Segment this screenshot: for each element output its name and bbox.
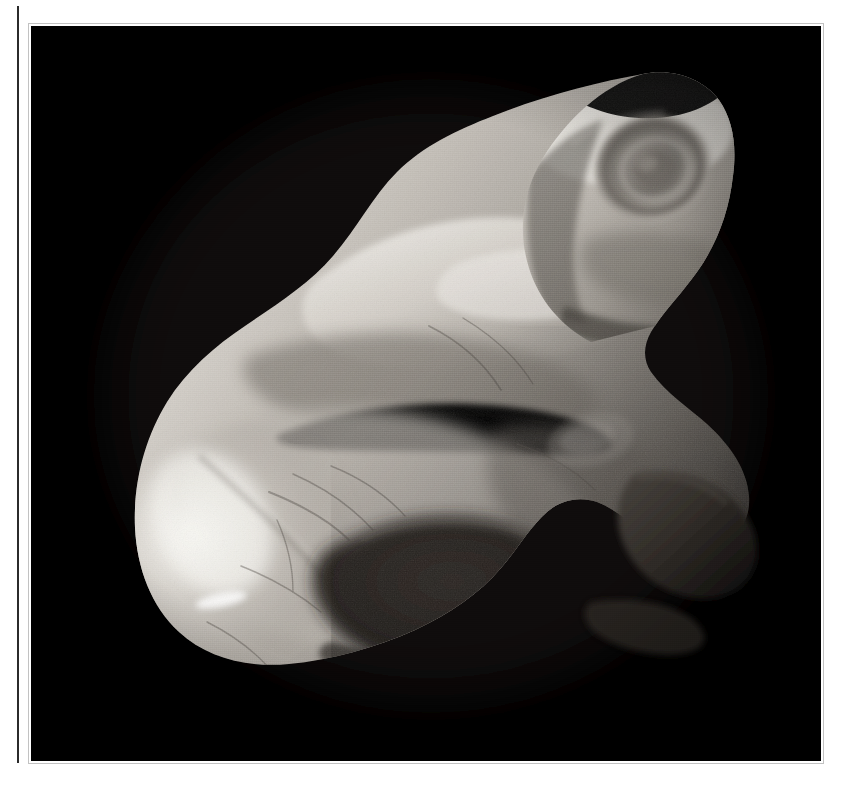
sculpture-stage: [31, 26, 821, 761]
sculpture-illustration: [31, 26, 821, 761]
vertical-rule: [17, 6, 19, 763]
photographic-plate: A pale carved stone sculpture of a crouc…: [31, 26, 821, 761]
page-canvas: A pale carved stone sculpture of a crouc…: [0, 0, 841, 788]
